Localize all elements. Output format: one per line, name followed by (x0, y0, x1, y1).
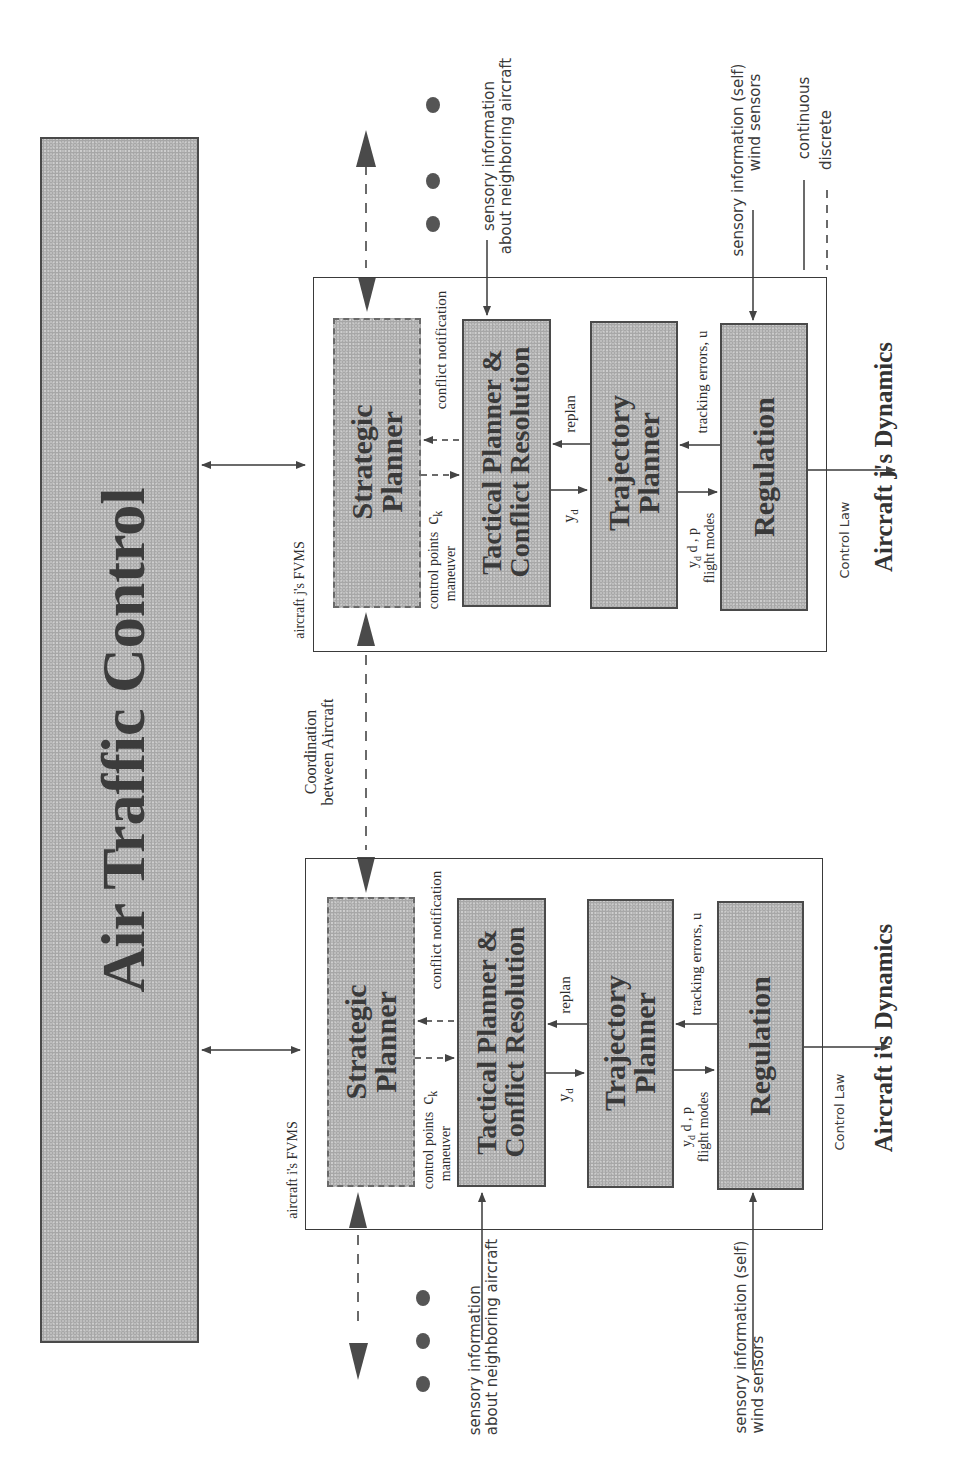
aircraft-i-conflict-notification-label: conflict notification (429, 871, 445, 990)
sensory-neighbor-line2: about neighboring aircraft (483, 1239, 500, 1436)
ellipsis-dot (426, 173, 440, 189)
aircraft-j-conflict-notification-label: conflict notification (434, 291, 450, 410)
ck-subscript: k (431, 511, 445, 517)
aircraft-j-regulation-title: Regulation (749, 397, 779, 537)
aircraft-i-trajectory-planner-title: Trajectory Planner (600, 975, 660, 1111)
aircraft-j-sensory-neighbor-label: sensory information about neighboring ai… (481, 58, 514, 255)
sensory-self-line1: sensory information (self) (730, 64, 747, 257)
block-title-line2: Planner (634, 395, 664, 531)
block-title-line2: Conflict Resolution (501, 927, 529, 1158)
block-title-line1: Strategic (341, 985, 371, 1100)
aircraft-j-tactical-planner-title: Tactical Planner & Conflict Resolution (478, 347, 534, 578)
block-title-line2: Conflict Resolution (506, 347, 534, 578)
sensory-self-line2: wind sensors (746, 64, 763, 257)
sensory-self-line2: wind sensors (749, 1241, 766, 1434)
flight-modes-text: flight modes (703, 513, 718, 583)
control-points-text: control points (421, 1112, 436, 1189)
ellipsis-dot (416, 1290, 430, 1306)
sensory-neighbor-line1: sensory information (481, 58, 498, 255)
control-points-text: control points (426, 532, 441, 609)
aircraft-i-yd-label: yd (556, 1088, 576, 1102)
aircraft-j-tracking-errors-label: tracking errors, u (695, 331, 711, 434)
sensory-neighbor-line1: sensory information (467, 1239, 484, 1436)
aircraft-i-regulation-title: Regulation (745, 976, 775, 1116)
aircraft-j-dynamics-label: Aircraft j's Dynamics (871, 342, 897, 572)
aircraft-j-control-law-label: Control Law (838, 502, 852, 579)
block-title-line2: Planner (371, 985, 401, 1100)
coordination-label-line1: Coordination (303, 698, 320, 805)
legend-continuous-label: continuous (796, 77, 813, 160)
ck-symbol: c (422, 517, 442, 525)
block-title-line1: Strategic (347, 405, 377, 520)
yd-subscript: d (568, 509, 580, 515)
block-title-line1: Trajectory (604, 395, 634, 531)
traj-out-sub: d (692, 556, 703, 561)
yd-subscript: d (563, 1088, 575, 1094)
aircraft-i-tracking-errors-label: tracking errors, u (689, 913, 705, 1016)
yd-symbol: y (560, 515, 577, 523)
aircraft-j-trajectory-output-label: yd d , p flight modes (686, 513, 718, 583)
sensory-self-line1: sensory information (self) (733, 1241, 750, 1434)
traj-out-rest: d , p (679, 1107, 694, 1132)
coordination-label-line2: between Aircraft (320, 698, 337, 805)
aircraft-i-replan-label: replan (558, 976, 574, 1013)
ck-subscript: k (426, 1091, 440, 1097)
aircraft-j-sensory-self-label: sensory information (self) wind sensors (730, 64, 763, 257)
aircraft-i-trajectory-output-label: yd d , p flight modes (680, 1092, 712, 1162)
maneuver-text: maneuver (444, 511, 459, 609)
block-title-line1: Tactical Planner & (478, 347, 506, 578)
ellipsis-dot (416, 1376, 430, 1392)
block-title-line2: Planner (377, 405, 407, 520)
aircraft-j-control-points-label: control points ck maneuver (423, 511, 459, 609)
aircraft-i-strategic-planner-title: Strategic Planner (341, 985, 401, 1100)
yd-symbol: y (555, 1094, 572, 1102)
ck-symbol: c (417, 1097, 437, 1105)
aircraft-i-tactical-planner-title: Tactical Planner & Conflict Resolution (473, 927, 529, 1158)
aircraft-i-sensory-self-label: sensory information (self) wind sensors (733, 1241, 766, 1434)
coordination-label: Coordination between Aircraft (303, 698, 337, 805)
flight-modes-text: flight modes (697, 1092, 712, 1162)
aircraft-j-trajectory-planner-title: Trajectory Planner (604, 395, 664, 531)
aircraft-i-control-points-label: control points ck maneuver (418, 1091, 454, 1189)
aircraft-i-fvms-label: aircraft i's FVMS (286, 1121, 301, 1218)
air-traffic-control-title: Air Traffic Control (91, 487, 156, 992)
ellipsis-dot (416, 1333, 430, 1349)
aircraft-j-replan-label: replan (563, 395, 579, 432)
maneuver-text: maneuver (439, 1091, 454, 1189)
aircraft-i-dynamics-label: Aircraft i's Dynamics (871, 924, 897, 1153)
traj-out-sub: d (686, 1135, 697, 1140)
aircraft-j-yd-label: yd (561, 509, 581, 523)
block-title-line2: Planner (630, 975, 660, 1111)
sensory-neighbor-line2: about neighboring aircraft (497, 58, 514, 255)
legend-discrete-label: discrete (818, 110, 835, 170)
block-title-line1: Tactical Planner & (473, 927, 501, 1158)
aircraft-j-fvms-label: aircraft j's FVMS (293, 541, 308, 638)
ellipsis-dot (426, 97, 440, 113)
ellipsis-dot (426, 216, 440, 232)
aircraft-j-strategic-planner-title: Strategic Planner (347, 405, 407, 520)
traj-out-y: y (685, 561, 700, 568)
traj-out-rest: d , p (685, 528, 700, 553)
aircraft-i-sensory-neighbor-label: sensory information about neighboring ai… (467, 1239, 500, 1436)
traj-out-y: y (679, 1140, 694, 1147)
block-title-line1: Trajectory (600, 975, 630, 1111)
aircraft-i-control-law-label: Control Law (833, 1074, 847, 1151)
